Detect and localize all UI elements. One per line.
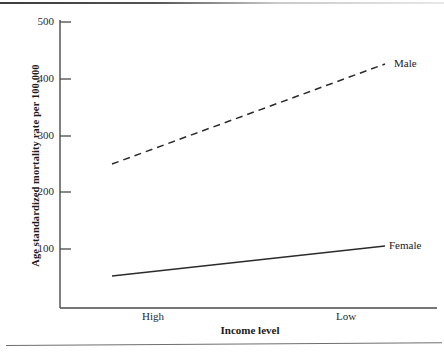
x-tick-label-low: Low: [311, 310, 381, 322]
y-tick-label-500: 500: [20, 15, 54, 27]
series-line-female: [112, 246, 385, 276]
line-chart-canvas: [0, 0, 444, 353]
y-tick-label-200: 200: [20, 185, 54, 197]
series-label-female: Female: [389, 239, 421, 251]
y-tick-label-100: 100: [20, 242, 54, 254]
series-label-male: Male: [394, 57, 417, 69]
series-line-male: [112, 64, 385, 164]
y-tick-label-300: 300: [20, 129, 54, 141]
x-axis-title: Income level: [190, 324, 310, 336]
chart-page: Age standardized mortality rate per 100,…: [0, 0, 444, 353]
y-tick-label-400: 400: [20, 72, 54, 84]
x-tick-label-high: High: [118, 310, 188, 322]
